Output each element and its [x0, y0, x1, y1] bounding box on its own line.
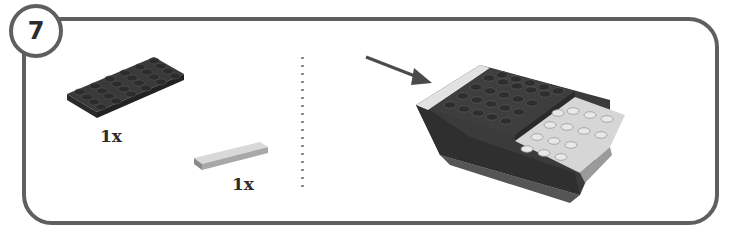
part-plate-image: [62, 52, 187, 118]
assembled-model-image: [410, 55, 630, 205]
dotted-divider: [301, 54, 304, 192]
part-tile-quantity: 1x: [232, 174, 254, 194]
part-tile-image: [192, 138, 272, 174]
step-number: 7: [28, 19, 45, 43]
part-plate-quantity: 1x: [100, 126, 122, 146]
step-number-badge: 7: [9, 4, 63, 58]
